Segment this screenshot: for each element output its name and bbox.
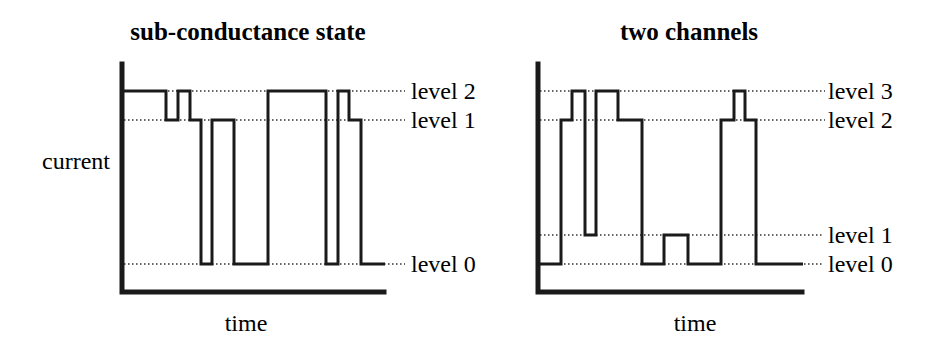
axes [122,64,384,292]
level-label: level 2 [411,78,476,104]
panel-sub-conductance: sub-conductance state current time level… [42,18,476,336]
diagram-canvas: sub-conductance state current time level… [0,0,944,345]
level-label: level 0 [411,251,476,277]
panel-title: sub-conductance state [130,18,365,45]
x-axis-label: time [674,310,717,336]
level-label: level 2 [828,107,893,133]
current-trace [124,91,385,264]
level-label: level 3 [828,78,893,104]
axes [538,64,802,292]
y-axis-label: current [42,148,110,174]
level-label: level 1 [828,222,893,248]
level-label: level 0 [828,251,893,277]
panel-title: two channels [620,18,758,45]
level-label: level 1 [411,107,476,133]
current-trace [540,91,803,264]
x-axis-label: time [225,310,268,336]
panel-two-channels: two channels time level 3 level 2 level … [538,18,893,336]
